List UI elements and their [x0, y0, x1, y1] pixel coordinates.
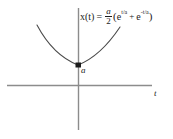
catenary-figure: x(t) = a 2 ( et/a + e-t/a ) a t	[0, 0, 173, 139]
equation-fraction-numerator: a	[105, 7, 112, 16]
equation-term-one-exponent: t/a	[121, 9, 127, 15]
equation-fraction: a 2	[105, 7, 112, 26]
equation-term-two-exponent: -t/a	[141, 9, 149, 15]
horizontal-axis-label: t	[154, 89, 157, 98]
minimum-point-label: a	[81, 66, 86, 75]
equation-close-paren: )	[149, 11, 153, 22]
equation-label: x(t) = a 2 ( et/a + e-t/a )	[80, 7, 152, 26]
equation-fraction-denominator: 2	[105, 17, 112, 26]
equation-term-two: e-t/a	[136, 11, 148, 22]
equation-function-name: x(t)	[80, 12, 94, 22]
equation-equals-sign: =	[96, 12, 102, 22]
equation-term-one: et/a	[117, 11, 127, 22]
equation-plus-operator: +	[129, 12, 134, 21]
